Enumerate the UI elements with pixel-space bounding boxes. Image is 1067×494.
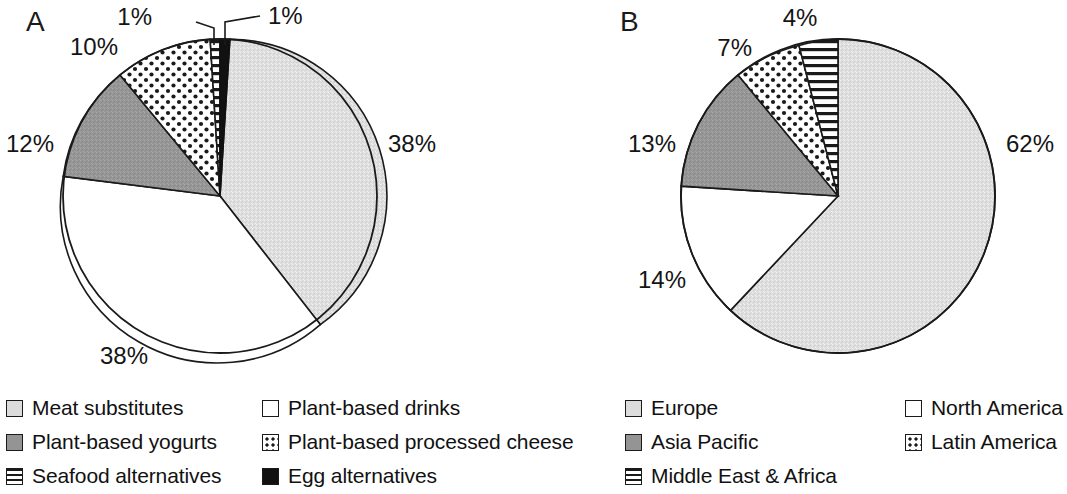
- legend-item-asia-pacific[interactable]: Asia Pacific: [625, 431, 758, 453]
- legend-area: Meat substitutes Plant-based yogurts Sea…: [0, 390, 1067, 494]
- legend-label-egg-alternatives: Egg alternatives: [288, 465, 437, 487]
- pie-b-label-middle-east-africa: 4%: [783, 4, 818, 31]
- legend-label-plant-based-drinks: Plant-based drinks: [288, 397, 460, 419]
- legend-swatch-white-icon: [262, 400, 279, 417]
- pie-a-label-yogurts: 12%: [6, 130, 54, 157]
- legend-swatch-dots-icon: [905, 434, 922, 451]
- legend-swatch-light-gray-icon: [625, 400, 642, 417]
- legend-item-europe[interactable]: Europe: [625, 397, 718, 419]
- legend-swatch-horizontal-stripes-icon: [6, 468, 23, 485]
- pie-chart-b: 4% 7% 13% 14% 62%: [628, 4, 1054, 353]
- legend-swatch-dark-gray-icon: [6, 434, 23, 451]
- pie-a-label-meat: 38%: [388, 130, 436, 157]
- legend-swatch-black-icon: [262, 468, 279, 485]
- legend-label-meat-substitutes: Meat substitutes: [32, 397, 183, 419]
- legend-label-asia-pacific: Asia Pacific: [651, 431, 758, 453]
- legend-item-plant-based-processed-cheese[interactable]: Plant-based processed cheese: [262, 431, 574, 453]
- figure-two-pie-charts: A B: [0, 0, 1067, 494]
- legend-label-north-america: North America: [931, 397, 1063, 419]
- pie-b-label-europe: 62%: [1006, 130, 1054, 157]
- legend-label-seafood-alternatives: Seafood alternatives: [32, 465, 221, 487]
- legend-item-meat-substitutes[interactable]: Meat substitutes: [6, 397, 183, 419]
- legend-item-north-america[interactable]: North America: [905, 397, 1063, 419]
- pie-a-label-egg: 1%: [268, 2, 303, 29]
- pie-charts-canvas: 1% 1% 10% 12% 38% 38% 4% 7% 13% 14%: [0, 0, 1067, 400]
- pie-chart-a: 1% 1% 10% 12% 38% 38%: [6, 2, 436, 369]
- legend-swatch-dots-icon: [262, 434, 279, 451]
- legend-label-latin-america: Latin America: [931, 431, 1057, 453]
- pie-b-label-asia-pacific: 13%: [628, 130, 676, 157]
- legend-item-latin-america[interactable]: Latin America: [905, 431, 1057, 453]
- legend-swatch-white-icon: [905, 400, 922, 417]
- legend-item-plant-based-yogurts[interactable]: Plant-based yogurts: [6, 431, 217, 453]
- legend-item-middle-east-africa[interactable]: Middle East & Africa: [625, 465, 837, 487]
- legend-label-europe: Europe: [651, 397, 718, 419]
- legend-swatch-light-gray-icon: [6, 400, 23, 417]
- legend-item-plant-based-drinks[interactable]: Plant-based drinks: [262, 397, 460, 419]
- pie-a-label-drinks: 38%: [100, 342, 148, 369]
- pie-a-label-seafood: 1%: [117, 3, 152, 30]
- legend-swatch-horizontal-stripes-icon: [625, 468, 642, 485]
- pie-b-label-latin-america: 7%: [717, 34, 752, 61]
- legend-label-plant-based-processed-cheese: Plant-based processed cheese: [288, 431, 574, 453]
- pie-a-label-cheese: 10%: [70, 33, 118, 60]
- legend-label-middle-east-africa: Middle East & Africa: [651, 465, 837, 487]
- legend-swatch-dark-gray-icon: [625, 434, 642, 451]
- pie-b-label-north-america: 14%: [638, 266, 686, 293]
- legend-label-plant-based-yogurts: Plant-based yogurts: [32, 431, 217, 453]
- legend-item-seafood-alternatives[interactable]: Seafood alternatives: [6, 465, 221, 487]
- legend-item-egg-alternatives[interactable]: Egg alternatives: [262, 465, 437, 487]
